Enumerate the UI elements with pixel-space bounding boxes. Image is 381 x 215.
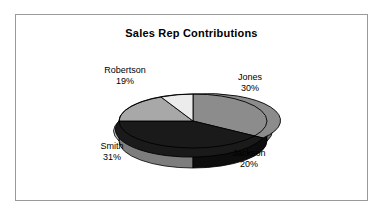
pie-label-robertson-name: Robertson [94, 65, 156, 76]
pie-label-jones-value: 30% [224, 83, 276, 94]
pie-label-jackson-name: Jackson [219, 148, 279, 159]
pie-label-smith: Smith 31% [88, 141, 136, 163]
pie-label-robertson-value: 19% [94, 76, 156, 87]
pie-label-robertson: Robertson 19% [94, 65, 156, 87]
pie-label-jackson-value: 20% [219, 159, 279, 170]
pie-label-jones-name: Jones [224, 72, 276, 83]
pie-label-jones: Jones 30% [224, 72, 276, 94]
chart-frame: Sales Rep Contributions Robertson 19% Jo… [15, 14, 368, 201]
pie-label-smith-name: Smith [88, 141, 136, 152]
pie-chart-graphic [16, 15, 369, 202]
pie-label-jackson: Jackson 20% [219, 148, 279, 170]
pie-label-smith-value: 31% [88, 152, 136, 163]
